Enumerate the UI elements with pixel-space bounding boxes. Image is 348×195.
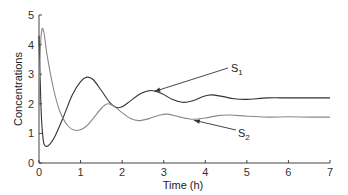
label-s2: S2: [238, 127, 250, 142]
x-tick-label: 2: [119, 166, 125, 178]
y-tick-label: 1: [28, 127, 34, 139]
x-tick-label: 1: [78, 166, 84, 178]
x-tick-label: 0: [36, 166, 42, 178]
x-tick-label: 7: [327, 166, 333, 178]
x-tick-label: 4: [202, 166, 208, 178]
y-tick-label: 2: [28, 98, 34, 110]
label-s1: S1: [231, 62, 243, 77]
annotation-s1: S1: [154, 62, 243, 92]
concentration-chart: 01234567012345 S1 S2 Time (h) Concentrat…: [0, 0, 348, 195]
series-lines: [39, 28, 330, 146]
x-axis-label: Time (h): [163, 179, 204, 191]
y-tick-label: 4: [28, 39, 34, 51]
axes: 01234567012345: [28, 9, 333, 178]
x-tick-label: 6: [285, 166, 291, 178]
y-tick-label: 5: [28, 9, 34, 21]
annotation-s2: S2: [194, 119, 251, 142]
y-tick-label: 3: [28, 68, 34, 80]
x-tick-label: 3: [161, 166, 167, 178]
y-tick-label: 0: [28, 157, 34, 169]
series-line-s1: [39, 36, 330, 147]
y-axis-label: Concentrations: [12, 52, 24, 126]
x-tick-label: 5: [244, 166, 250, 178]
